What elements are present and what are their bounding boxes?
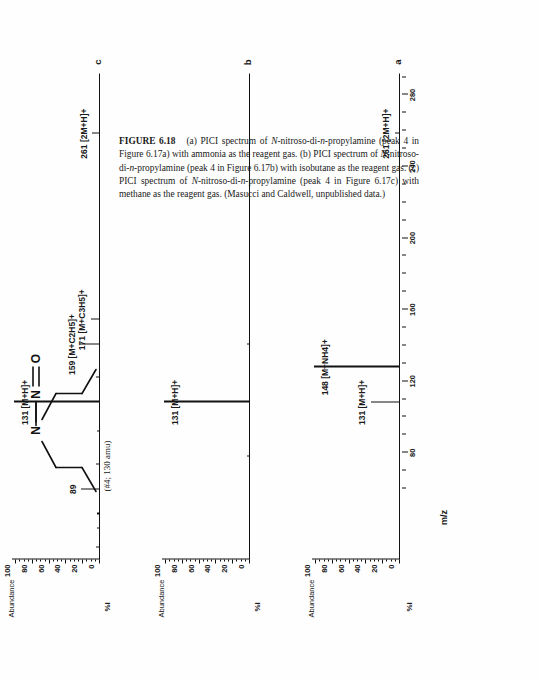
chemical-structure-inset: N N O [18,287,104,497]
x-tick-minor [402,326,406,327]
y-tick-label: 0 [387,564,396,568]
y-tick [315,559,316,563]
y-tick-label: 80 [319,564,328,572]
y-tick [182,559,183,563]
y-tick-label: 20 [70,564,79,572]
y-tick [232,559,233,563]
spectrum-peak [97,527,100,528]
x-tick-minor [402,129,406,130]
spectrum-peak [247,343,250,344]
panel-letter-c: c [92,59,103,64]
y-tick [349,559,350,563]
y-tick [249,559,250,563]
spectrum-peak [97,512,100,513]
x-tick-label: 280 [408,88,417,101]
y-tick [99,559,100,563]
x-tick-minor [402,219,406,220]
y-tick-label: 40 [203,564,212,572]
atom-label-oxygen: O [29,353,43,362]
y-tick-label: 0 [87,564,96,568]
y-axis-title-a: Abundance [307,579,316,617]
x-tick-minor [402,290,406,291]
figure-label: FIGURE 6.18 [119,136,176,146]
x-tick-minor [402,469,406,470]
panel-letter-b: b [242,59,253,65]
spectrum-peak [96,546,100,547]
atom-label-amine-n: N [29,426,43,435]
y-tick-label: 60 [36,564,45,572]
y-tick [82,559,83,563]
y-tick [15,559,16,563]
peak-annotation-label: 131 [M+H]+ [170,379,180,424]
y-tick [382,559,383,563]
structure-mass-annotation: (#4; 130 amu) [102,440,112,491]
y-tick-label: 60 [336,564,345,572]
x-tick-label: 200 [408,231,417,244]
y-tick [199,559,200,563]
spectrum-peak [371,401,400,402]
x-tick-minor [402,111,406,112]
y-axis-unit-a: %I [405,602,414,611]
y-tick [65,559,66,563]
x-tick-minor [402,487,406,488]
figure-caption: FIGURE 6.18 (a) PICI spectrum of N-nitro… [119,135,419,202]
y-tick [399,559,400,563]
rotated-figure-stage: Abundance %I 020406080100 c 89131 [M+H]+… [0,0,538,679]
y-tick [365,559,366,563]
y-axis-title-b: Abundance [157,579,166,617]
x-tick-minor [402,433,406,434]
x-tick-minor [402,362,406,363]
y-axis-unit-c: %I [103,602,112,611]
y-tick [32,559,33,563]
y-tick-label: 100 [303,564,312,577]
peak-annotation-label: 148 [M+NH4]+ [320,339,330,395]
x-tick-minor [402,76,406,77]
peak-annotation-label: 261 [2M+H]+ [79,108,89,158]
x-axis-title: m/z [439,509,449,524]
x-tick-minor [402,398,406,399]
x-tick-label: 120 [408,374,417,387]
y-tick-label: 0 [237,564,246,568]
y-axis-unit-b: %I [253,602,262,611]
y-tick-label: 20 [370,564,379,572]
y-tick-label: 40 [53,564,62,572]
atom-label-nitroso-n: N [29,390,43,399]
spectrum-peak [247,455,250,456]
x-tick-label: 160 [408,303,417,316]
y-tick [215,559,216,563]
panel-letter-a: a [392,59,403,64]
figure-page: Abundance %I 020406080100 c 89131 [M+H]+… [0,0,538,679]
y-tick-label: 40 [353,564,362,572]
y-tick [332,559,333,563]
spectrum-peak [395,132,400,133]
x-tick-minor [402,272,406,273]
spectrum-peak [92,132,100,133]
y-axis-title-c: Abundance [7,579,16,617]
structure-svg: N N O [18,287,104,497]
y-tick-label: 60 [186,564,195,572]
x-tick-minor [402,344,406,345]
y-tick-label: 20 [220,564,229,572]
y-tick-label: 80 [169,564,178,572]
y-tick-label: 100 [153,564,162,577]
y-tick-label: 100 [3,564,12,577]
spectrum-panel-c: Abundance %I 020406080100 c 89131 [M+H]+… [10,69,118,617]
x-tick-minor [402,416,406,417]
y-tick [49,559,50,563]
y-tick-label: 80 [19,564,28,572]
x-tick-minor [402,254,406,255]
x-tick-label: 80 [408,448,417,456]
peak-annotation-label: 131 [M+H]+ [357,379,367,424]
y-tick [165,559,166,563]
